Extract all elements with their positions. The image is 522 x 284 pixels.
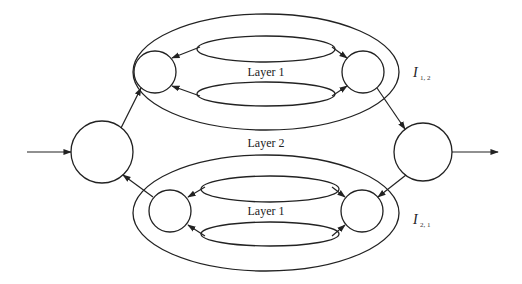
bottom-interface-group: Layer 1 — [133, 155, 399, 271]
interface-top-label: I — [412, 65, 419, 80]
bottom-layer1-label: Layer 1 — [248, 204, 285, 218]
top-lower-arrow-right — [332, 86, 347, 96]
top-lower-arrow-left — [172, 86, 200, 96]
output-node — [394, 123, 452, 181]
layer2-label: Layer 2 — [248, 136, 285, 150]
top-left-node — [134, 51, 176, 93]
interface-bottom-label: I — [412, 212, 419, 227]
interface-bottom-subscript: 2, 1 — [420, 221, 431, 229]
top-upper-arrow-right — [332, 47, 347, 58]
top-interface-group: Layer 1 — [133, 14, 399, 130]
layered-network-diagram: Layer 1 Layer 1 Layer 2 I 1, — [0, 0, 522, 284]
top-right-node — [342, 51, 384, 93]
top-upper-arrow-left — [172, 47, 200, 58]
bottom-upper-loop-ellipse — [201, 176, 339, 202]
bottom-lower-arrow-left — [188, 225, 205, 236]
bottom-lower-loop-ellipse — [201, 222, 339, 246]
top-layer1-label: Layer 1 — [248, 65, 285, 79]
input-to-top-left-arrow — [121, 88, 141, 128]
top-lower-loop-ellipse — [197, 82, 335, 106]
input-node — [71, 121, 133, 183]
top-upper-loop-ellipse — [197, 36, 335, 62]
bottom-left-node — [149, 190, 191, 232]
bottom-right-node — [341, 190, 383, 232]
interface-top-subscript: 1, 2 — [420, 74, 431, 82]
top-right-to-output-arrow — [377, 88, 405, 129]
